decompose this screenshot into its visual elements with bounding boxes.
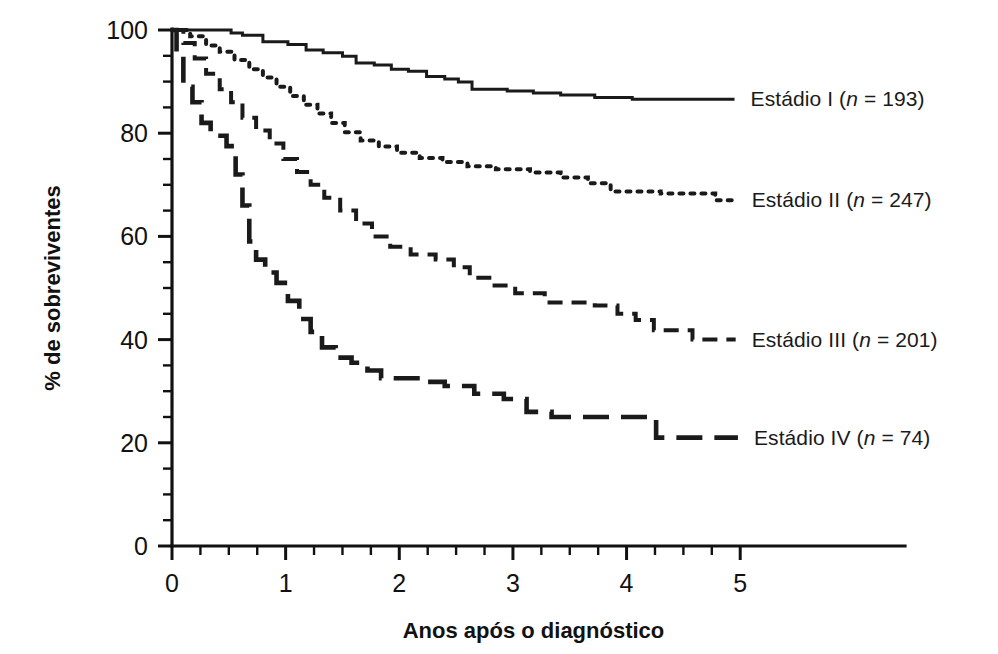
series-label-estadio-i: Estádio I (n = 193) bbox=[751, 87, 925, 111]
y-tick-label: 20 bbox=[120, 429, 148, 457]
x-tick-label: 1 bbox=[279, 569, 293, 597]
x-tick-label: 5 bbox=[733, 569, 747, 597]
curve-estadio-iv bbox=[172, 30, 738, 438]
axis-ticks bbox=[158, 30, 740, 560]
y-axis-title: % de sobreviventes bbox=[40, 185, 65, 390]
x-axis-title: Anos após o diagnóstico bbox=[403, 618, 665, 643]
series-label-estadio-ii: Estádio II (n = 247) bbox=[752, 188, 932, 212]
curve-estadio-i bbox=[172, 30, 735, 99]
y-tick-label: 0 bbox=[134, 532, 148, 560]
y-tick-label: 40 bbox=[120, 326, 148, 354]
x-tick-label: 2 bbox=[392, 569, 406, 597]
curve-estadio-ii bbox=[172, 30, 736, 200]
x-tick-label: 3 bbox=[506, 569, 520, 597]
axis-tick-labels: 020406080100012345Anos após o diagnóstic… bbox=[40, 16, 747, 643]
survival-curves bbox=[172, 30, 738, 438]
survival-chart-figure: 020406080100012345Anos após o diagnóstic… bbox=[0, 0, 998, 654]
x-tick-label: 4 bbox=[620, 569, 634, 597]
x-tick-label: 0 bbox=[165, 569, 179, 597]
curve-estadio-iii bbox=[172, 30, 736, 340]
y-tick-label: 80 bbox=[120, 119, 148, 147]
y-tick-label: 100 bbox=[106, 16, 148, 44]
y-tick-label: 60 bbox=[120, 222, 148, 250]
series-label-estadio-iv: Estádio IV (n = 74) bbox=[754, 426, 930, 450]
series-label-estadio-iii: Estádio III (n = 201) bbox=[752, 328, 938, 352]
